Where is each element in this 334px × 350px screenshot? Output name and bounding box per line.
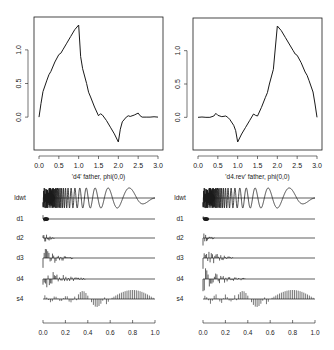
x-tick-label: 0.8: [288, 329, 297, 336]
wavelet-line: [198, 26, 317, 142]
row-label-ldwt: ldwt: [174, 194, 186, 201]
y-tick-label: 0.5: [174, 79, 181, 89]
x-tick-label: 0.6: [266, 329, 275, 336]
y-tick-label: 1.0: [15, 45, 22, 55]
multiresolution-plot-right: ldwtd1d2d3d4s40.00.20.40.60.81.0: [174, 188, 320, 336]
x-tick-label: 0.4: [243, 329, 252, 336]
row-label-d2: d2: [176, 234, 184, 241]
row-label-s4: s4: [177, 295, 184, 302]
plot-frame: [193, 18, 322, 150]
y-tick-label: 0.0: [174, 112, 181, 122]
x-tick-label: 0.5: [54, 162, 64, 169]
x-tick-label: 1.0: [150, 329, 159, 336]
x-tick-label: 0.8: [128, 329, 137, 336]
row-label-d1: d1: [176, 215, 184, 222]
x-tick-label: 1.0: [74, 162, 84, 169]
y-tick-label: 0.0: [15, 112, 22, 122]
x-tick-label: 1.5: [253, 162, 263, 169]
x-tick-label: 2.0: [272, 162, 282, 169]
x-tick-label: 3.0: [153, 162, 163, 169]
x-axis-title: 'd4' father, phi(0,0): [72, 173, 125, 181]
father-wavelet-plot-d4: 0.00.51.01.52.02.53.0'd4' father, phi(0,…: [15, 17, 163, 181]
x-tick-label: 0.2: [221, 329, 230, 336]
y-tick-label: 0.5: [15, 79, 22, 89]
wavelet-line: [39, 25, 158, 142]
row-label-d3: d3: [176, 254, 184, 261]
x-tick-label: 1.0: [310, 329, 319, 336]
x-tick-label: 0.0: [198, 329, 207, 336]
row-label-d1: d1: [16, 215, 24, 222]
x-tick-label: 2.5: [133, 162, 143, 169]
row-label-d4: d4: [176, 275, 184, 282]
row-label-d3: d3: [16, 254, 24, 261]
x-tick-label: 0.0: [38, 329, 47, 336]
ldwt-dense-start: [43, 193, 55, 203]
x-tick-label: 2.5: [292, 162, 302, 169]
row-label-d2: d2: [16, 234, 24, 241]
ldwt-dense-start: [203, 193, 215, 203]
x-tick-label: 0.0: [193, 162, 203, 169]
father-wavelet-plot-d4rev: 0.00.51.01.52.02.53.0'd4.rev' father, ph…: [174, 18, 322, 181]
x-axis-title: 'd4.rev' father, phi(0,0): [225, 173, 289, 181]
x-tick-label: 2.0: [113, 162, 123, 169]
row-label-d4: d4: [16, 275, 24, 282]
plot-frame: [34, 17, 163, 150]
row-label-s4: s4: [17, 295, 24, 302]
x-tick-label: 0.0: [34, 162, 44, 169]
x-tick-label: 3.0: [312, 162, 322, 169]
x-tick-label: 0.4: [83, 329, 92, 336]
x-tick-label: 0.6: [106, 329, 115, 336]
y-tick-label: 1.0: [174, 46, 181, 56]
x-tick-label: 0.2: [61, 329, 70, 336]
figure: 0.00.51.01.52.02.53.0'd4' father, phi(0,…: [0, 0, 334, 350]
x-tick-label: 1.0: [233, 162, 243, 169]
d1-dense-start: [203, 217, 209, 221]
row-label-ldwt: ldwt: [14, 194, 26, 201]
d1-dense-start: [43, 217, 49, 221]
x-tick-label: 1.5: [94, 162, 104, 169]
x-tick-label: 0.5: [213, 162, 223, 169]
multiresolution-plot-left: ldwtd1d2d3d4s40.00.20.40.60.81.0: [14, 188, 160, 336]
